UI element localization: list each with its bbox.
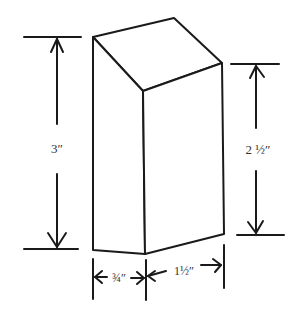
front-height-label: 2 ½″	[246, 143, 271, 156]
block-dimension-diagram: 3″ 2 ½″ ¾″ 1½″	[0, 0, 299, 316]
diagram-canvas	[0, 0, 299, 316]
back-height-label: 3″	[51, 142, 63, 155]
block-shape	[93, 18, 224, 254]
block-front-face	[143, 63, 224, 254]
width-label: 1½″	[174, 265, 194, 277]
depth-label: ¾″	[112, 272, 126, 284]
